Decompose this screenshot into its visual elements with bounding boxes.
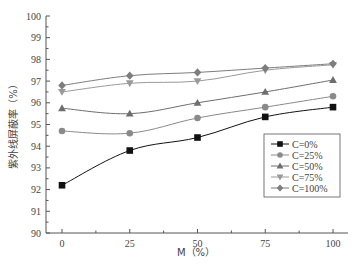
circle-marker-icon [330,93,337,100]
x-axis-title: M（%） [177,247,215,258]
legend-label: C=25% [292,150,323,161]
series-c-100- [58,60,337,90]
triangle-up-marker-icon [329,76,337,83]
square-marker-icon [59,182,66,189]
square-marker-icon [194,134,201,141]
square-marker-icon [126,147,133,154]
circle-marker-icon [194,115,201,122]
x-tick-label: 75 [260,238,270,249]
diamond-marker-icon [329,60,337,68]
square-marker-icon [277,141,283,147]
y-tick-label: 99 [31,32,41,43]
y-tick-label: 97 [31,76,41,87]
legend-label: C=100% [292,183,328,194]
legend-label: C=50% [292,161,323,172]
y-tick-label: 96 [31,97,41,108]
circle-marker-icon [277,152,283,158]
legend: C=0%C=25%C=50%C=75%C=100% [264,134,340,197]
triangle-up-marker-icon [58,104,66,111]
circle-marker-icon [126,130,133,137]
diamond-marker-icon [194,68,202,76]
x-tick-label: 100 [326,238,341,249]
y-tick-label: 90 [31,228,41,239]
y-axis-title: 紫外线屏蔽率（%） [7,79,19,169]
y-tick-label: 93 [31,162,41,173]
y-tick-label: 95 [31,119,41,130]
y-tick-label: 98 [31,54,41,65]
diamond-marker-icon [126,72,134,80]
y-tick-label: 100 [26,11,41,22]
y-tick-label: 94 [31,141,41,152]
legend-label: C=75% [292,172,323,183]
square-marker-icon [262,114,269,121]
circle-marker-icon [59,128,66,135]
diamond-marker-icon [58,81,66,89]
square-marker-icon [330,104,337,111]
y-tick-label: 92 [31,184,41,195]
circle-marker-icon [262,104,269,111]
triangle-down-marker-icon [58,89,66,96]
series-line [62,80,333,114]
legend-label: C=0% [292,139,318,150]
axes: 909192939495969798991000255075100 [26,11,348,250]
x-tick-label: 0 [60,238,65,249]
line-chart: 909192939495969798991000255075100 C=0%C=… [0,0,358,274]
series-c-75- [58,62,337,96]
y-tick-label: 91 [31,206,41,217]
x-tick-label: 25 [125,238,135,249]
